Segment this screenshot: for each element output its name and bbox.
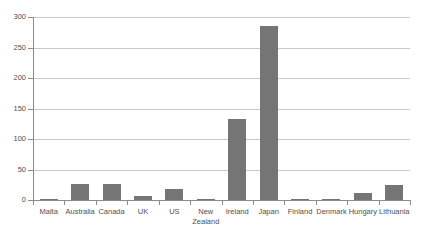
bar	[260, 26, 278, 200]
y-axis-label-250: 250	[0, 44, 26, 52]
x-tick	[316, 200, 317, 205]
x-tick	[379, 200, 380, 205]
x-tick	[284, 200, 285, 205]
bar	[228, 119, 246, 200]
y-axis-label-0: 0	[0, 196, 26, 204]
x-tick	[410, 200, 411, 205]
x-tick	[64, 200, 65, 205]
x-axis-label: Lithuania	[375, 207, 414, 217]
x-tick	[222, 200, 223, 205]
x-tick	[253, 200, 254, 205]
x-tick	[347, 200, 348, 205]
bar	[165, 189, 183, 200]
x-tick	[127, 200, 128, 205]
bar	[103, 184, 121, 200]
bar	[71, 184, 89, 200]
x-tick	[96, 200, 97, 205]
y-axis-label-150: 150	[0, 105, 26, 113]
bar	[354, 193, 372, 200]
bar-series	[33, 17, 410, 200]
x-tick	[190, 200, 191, 205]
x-tick	[33, 200, 34, 205]
y-axis-label-50: 50	[0, 166, 26, 174]
y-axis-label-300: 300	[0, 13, 26, 21]
y-axis-label-100: 100	[0, 135, 26, 143]
bar-chart: 300 250 200 150 100 50 0 MaltaAustraliaC…	[0, 0, 435, 237]
x-tick	[159, 200, 160, 205]
bar	[385, 185, 403, 200]
y-axis-label-200: 200	[0, 74, 26, 82]
